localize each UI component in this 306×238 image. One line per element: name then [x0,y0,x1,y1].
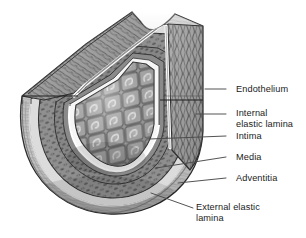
label-endothelium: Endothelium [236,84,288,95]
vessel-wall-figure: Endothelium Internal elastic lamina Inti… [0,0,306,238]
label-intima: Intima [236,131,262,142]
label-internal-elastic-lamina: Internal elastic lamina [236,108,293,130]
label-media: Media [236,152,262,163]
callout-label-layer: Endothelium Internal elastic lamina Inti… [0,0,306,238]
label-external-elastic-lamina: External elastic lamina [196,202,260,224]
label-adventitia: Adventitia [236,173,277,184]
